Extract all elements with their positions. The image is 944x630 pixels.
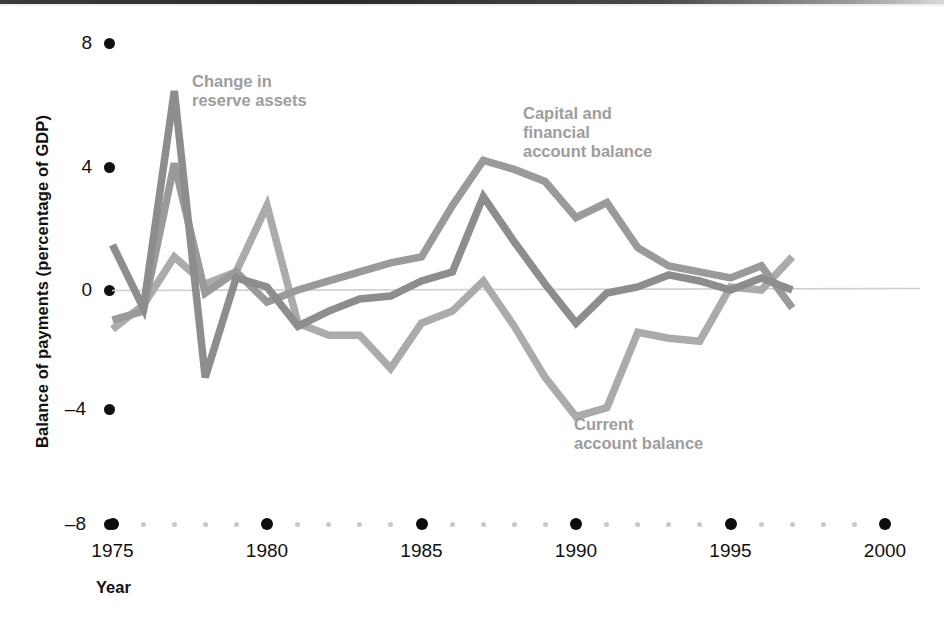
x-tick-dot-major-1980 — [261, 518, 273, 530]
x-tick-dot-minor-1982 — [326, 522, 331, 527]
x-tick-dot-major-1985 — [416, 518, 428, 530]
series-line-capital-and-financial-account-balance — [113, 160, 793, 320]
chart-figure: Balance of payments (percentage of GDP) … — [0, 0, 944, 630]
x-tick-dot-minor-1988 — [512, 522, 517, 527]
x-tick-dot-minor-1996 — [759, 522, 764, 527]
x-tick-dot-minor-1978 — [203, 522, 208, 527]
x-tick-label-1990: 1990 — [541, 540, 611, 562]
x-tick-dot-minor-1989 — [543, 522, 548, 527]
x-tick-label-1995: 1995 — [696, 540, 766, 562]
x-tick-label-1980: 1980 — [232, 540, 302, 562]
annotation-line-2: account balance — [574, 434, 703, 453]
annotation-line-1: Capital and — [523, 104, 652, 123]
annotation-line-1: Change in — [192, 72, 307, 91]
x-tick-dot-minor-1991 — [604, 522, 609, 527]
x-tick-label-1985: 1985 — [387, 540, 457, 562]
x-tick-dot-minor-1984 — [388, 522, 393, 527]
annotation-capital-and-financial-account-balance: Capital and financial account balance — [523, 104, 652, 161]
plot-area — [0, 0, 944, 630]
x-tick-dot-minor-1981 — [295, 522, 300, 527]
x-tick-dot-minor-1986 — [450, 522, 455, 527]
x-tick-dot-minor-1993 — [666, 522, 671, 527]
x-tick-label-2000: 2000 — [850, 540, 920, 562]
series-line-change-in-reserve-assets — [113, 91, 793, 377]
annotation-change-in-reserve-assets: Change in reserve assets — [192, 72, 307, 110]
annotation-line-2: reserve assets — [192, 91, 307, 110]
series-line-current-account-balance — [113, 206, 793, 417]
x-tick-dot-minor-1992 — [635, 522, 640, 527]
x-tick-dot-minor-1983 — [357, 522, 362, 527]
x-tick-dot-minor-1976 — [141, 522, 146, 527]
x-tick-dot-major-1995 — [725, 518, 737, 530]
x-tick-dot-minor-1987 — [481, 522, 486, 527]
x-tick-dot-minor-1998 — [821, 522, 826, 527]
x-tick-label-1975: 1975 — [78, 540, 148, 562]
annotation-line-2: financial — [523, 123, 652, 142]
x-tick-dot-minor-1997 — [790, 522, 795, 527]
annotation-current-account-balance: Current account balance — [574, 415, 703, 453]
x-tick-dot-minor-1994 — [697, 522, 702, 527]
x-tick-dot-major-1975 — [107, 518, 119, 530]
x-tick-dot-major-2000 — [879, 518, 891, 530]
x-tick-dot-minor-1999 — [852, 522, 857, 527]
annotation-line-3: account balance — [523, 142, 652, 161]
annotation-line-1: Current — [574, 415, 703, 434]
x-tick-dot-minor-1979 — [234, 522, 239, 527]
x-tick-dot-minor-1977 — [172, 522, 177, 527]
series-group — [113, 91, 793, 417]
x-tick-dot-major-1990 — [570, 518, 582, 530]
